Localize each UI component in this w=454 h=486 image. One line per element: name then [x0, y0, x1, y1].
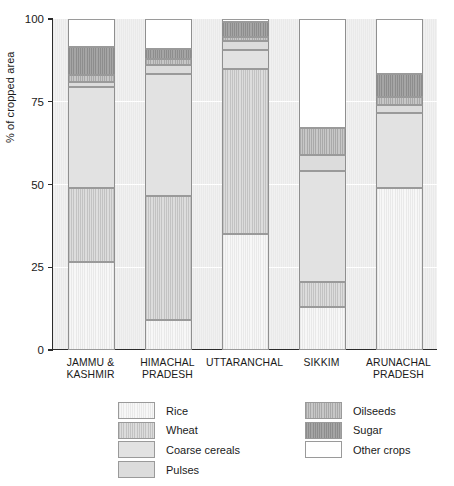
bar-segment-pulses[interactable] — [68, 82, 115, 87]
bar-sikkim[interactable] — [299, 19, 346, 349]
bar-segment-oilseeds[interactable] — [68, 75, 115, 82]
y-tick-label: 25 — [13, 262, 44, 272]
legend-swatch-pulses — [118, 461, 155, 478]
legend: RiceWheatCoarse cerealsPulses OilseedsSu… — [118, 401, 418, 481]
bar-segment-rice[interactable] — [376, 188, 423, 350]
bar-jammu-kashmir[interactable] — [68, 19, 115, 349]
y-tick-mark — [48, 18, 53, 19]
bar-segment-sugar[interactable] — [145, 49, 192, 59]
legend-label: Wheat — [166, 424, 198, 436]
legend-item-other[interactable]: Other crops — [305, 440, 410, 460]
bar-segment-sugar[interactable] — [222, 22, 269, 37]
bar-segment-sugar[interactable] — [68, 47, 115, 75]
stacked-bar-chart-figure: % of cropped area 0255075100 JAMMU &KASH… — [0, 0, 454, 486]
legend-swatch-sugar — [305, 422, 342, 439]
bar-segment-coarse[interactable] — [222, 50, 269, 68]
legend-label: Other crops — [353, 444, 410, 456]
bar-segment-sugar[interactable] — [376, 74, 423, 97]
bar-segment-coarse[interactable] — [145, 74, 192, 196]
legend-label: Oilseeds — [353, 405, 396, 417]
legend-label: Sugar — [353, 424, 382, 436]
bar-himachal-pradesh[interactable] — [145, 19, 192, 349]
bar-segment-rice[interactable] — [222, 234, 269, 350]
bar-segment-oilseeds[interactable] — [222, 37, 269, 40]
y-tick-label: 75 — [13, 97, 44, 107]
bar-arunachal-pradesh[interactable] — [376, 19, 423, 349]
bar-segment-pulses[interactable] — [145, 65, 192, 73]
bar-segment-wheat[interactable] — [145, 196, 192, 320]
x-tick-label-line: PRADESH — [344, 369, 454, 381]
bar-segment-other[interactable] — [376, 19, 423, 74]
bar-segment-rice[interactable] — [68, 262, 115, 350]
y-tick-label: 0 — [13, 345, 44, 355]
legend-swatch-oilseeds — [305, 402, 342, 419]
bar-segment-rice[interactable] — [145, 320, 192, 350]
bar-segment-pulses[interactable] — [299, 155, 346, 172]
legend-item-coarse[interactable]: Coarse cereals — [118, 440, 240, 460]
plot-area — [52, 19, 437, 350]
bar-segment-oilseeds[interactable] — [299, 128, 346, 154]
y-tick-mark — [48, 349, 53, 350]
legend-swatch-wheat — [118, 422, 155, 439]
legend-swatch-coarse — [118, 441, 155, 458]
bar-segment-rice[interactable] — [299, 307, 346, 350]
legend-swatch-rice — [118, 402, 155, 419]
bar-uttaranchal[interactable] — [222, 19, 269, 349]
bar-segment-wheat[interactable] — [299, 282, 346, 307]
y-tick-mark — [48, 184, 53, 185]
legend-item-oilseeds[interactable]: Oilseeds — [305, 401, 410, 421]
legend-item-wheat[interactable]: Wheat — [118, 421, 240, 441]
bar-segment-oilseeds[interactable] — [376, 97, 423, 105]
y-tick-label: 50 — [13, 180, 44, 190]
x-tick-label-line: ARUNACHAL — [344, 357, 454, 369]
bar-segment-coarse[interactable] — [68, 87, 115, 188]
legend-column-right: OilseedsSugarOther crops — [305, 401, 410, 460]
y-tick-mark — [48, 267, 53, 268]
x-tick-label: ARUNACHALPRADESH — [344, 357, 454, 382]
bar-segment-pulses[interactable] — [222, 41, 269, 51]
y-tick-mark — [48, 101, 53, 102]
y-axis-title: % of cropped area — [4, 3, 22, 143]
x-tick-label-line: PRADESH — [113, 369, 223, 381]
bar-segment-other[interactable] — [145, 19, 192, 49]
bar-segment-pulses[interactable] — [376, 105, 423, 113]
bar-segment-wheat[interactable] — [68, 188, 115, 262]
legend-item-pulses[interactable]: Pulses — [118, 460, 240, 480]
legend-label: Pulses — [166, 464, 199, 476]
legend-swatch-other — [305, 441, 342, 458]
legend-item-rice[interactable]: Rice — [118, 401, 240, 421]
legend-column-left: RiceWheatCoarse cerealsPulses — [118, 401, 240, 479]
legend-label: Rice — [166, 405, 188, 417]
y-tick-label: 100 — [13, 14, 44, 24]
bar-segment-coarse[interactable] — [299, 171, 346, 282]
bar-segment-other[interactable] — [222, 19, 269, 22]
bar-segment-oilseeds[interactable] — [145, 59, 192, 66]
bar-segment-wheat[interactable] — [222, 69, 269, 235]
bar-segment-other[interactable] — [299, 19, 346, 128]
legend-item-sugar[interactable]: Sugar — [305, 421, 410, 441]
bar-segment-coarse[interactable] — [376, 113, 423, 187]
bar-segment-other[interactable] — [68, 19, 115, 47]
legend-label: Coarse cereals — [166, 444, 240, 456]
